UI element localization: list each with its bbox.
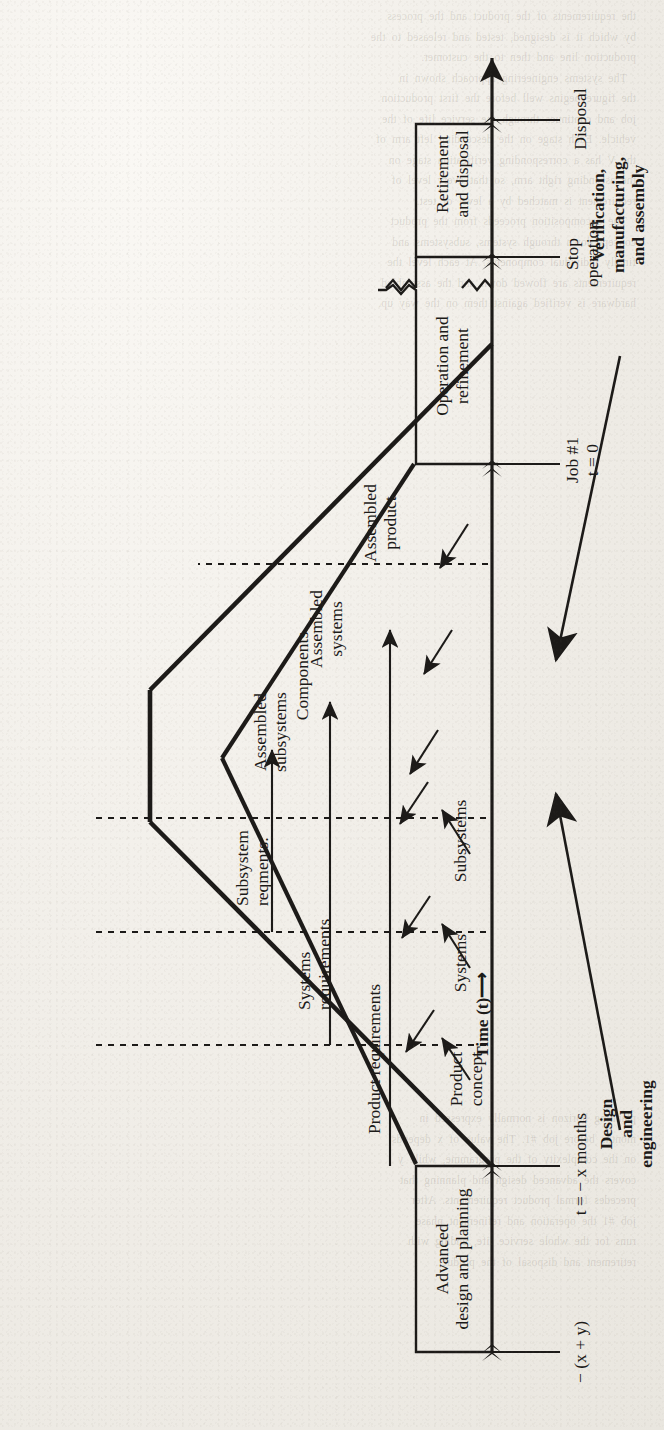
level-systems-requirements: Systems requirements xyxy=(294,840,334,1010)
v-model-outer-envelope xyxy=(150,344,492,1166)
level-assembled-subsystems: Assembled subsystems xyxy=(250,658,290,806)
level-product-concept: Product concept xyxy=(446,1024,486,1134)
phase-advanced-design-and-planning: Advanced design and planning xyxy=(432,1184,472,1334)
level-product-requirements: Product requirements xyxy=(364,904,384,1134)
level-assembled-systems: Assembled systems xyxy=(306,564,346,694)
level-systems: Systems xyxy=(450,908,470,1018)
phase-operation-and-refinement: Operation and refinement xyxy=(432,286,472,446)
level-assembled-product: Assembled product xyxy=(360,458,400,588)
time-marker-x-months: t = − x months xyxy=(570,1094,590,1234)
annotation-verification-manufacturing-assembly: Verification, manufacturing, and assembl… xyxy=(588,110,648,320)
time-marker-start: − (x + y) xyxy=(570,1292,590,1412)
annotation-design-and-engineering: Design and engineering xyxy=(596,1054,656,1194)
time-marker-job1: Job #1 t = 0 xyxy=(562,390,602,530)
time-axis-arrow-icon: ⟶ xyxy=(472,973,492,998)
time-marker-leaders xyxy=(492,120,560,1352)
level-subsystems: Subsystems xyxy=(450,776,470,906)
phase-retirement-and-disposal: Retirement and disposal xyxy=(432,104,472,244)
rotated-diagram-stage: − (x + y) t = − x months Job #1 t = 0 St… xyxy=(0,0,664,1430)
time-marker-disposal: Disposal xyxy=(570,54,590,184)
